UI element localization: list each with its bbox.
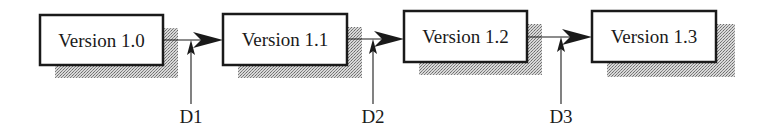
version-label: Version 1.2 (422, 26, 509, 47)
version-diagram: Version 1.0 Version 1.1 Version 1.2 Vers… (0, 0, 771, 128)
delta-label-d2: D2 (361, 106, 384, 127)
version-label: Version 1.0 (58, 30, 145, 51)
delta-label-d3: D3 (549, 106, 572, 127)
delta-label-d1: D1 (179, 106, 202, 127)
version-label: Version 1.1 (242, 29, 329, 50)
version-box: Version 1.0 (40, 15, 163, 65)
delta-labels: D1 D2 D3 (179, 106, 572, 127)
version-label: Version 1.3 (611, 26, 698, 47)
version-boxes: Version 1.0 Version 1.1 Version 1.2 Vers… (40, 11, 716, 65)
version-box: Version 1.3 (592, 11, 716, 62)
version-box: Version 1.1 (223, 14, 347, 65)
version-box: Version 1.2 (404, 11, 527, 62)
